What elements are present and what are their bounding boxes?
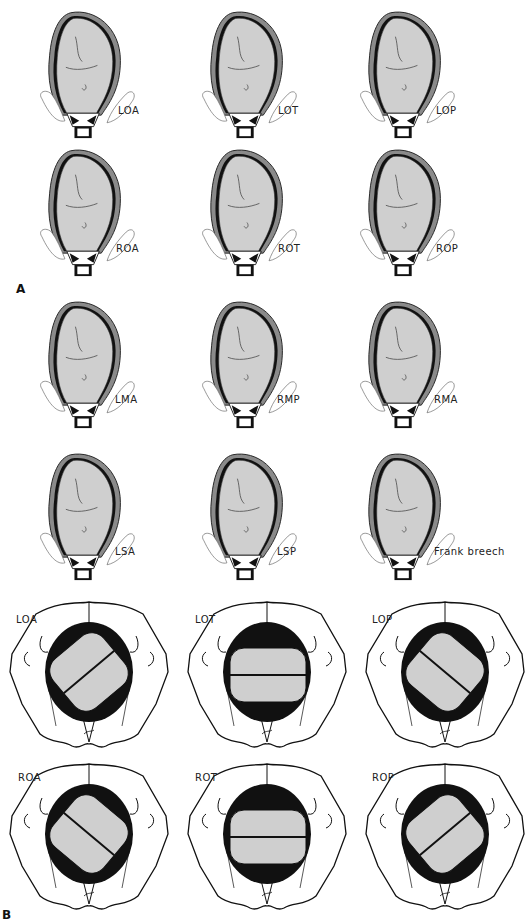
figure-label: LSA	[115, 546, 135, 557]
fetal-position-figure-lop	[350, 8, 460, 140]
figure-label: LOP	[372, 614, 393, 625]
panel-a-label: A	[16, 282, 25, 296]
figure-label: LOT	[278, 105, 299, 116]
figure-label: ROP	[372, 772, 394, 783]
figure-label: Frank breech	[434, 546, 505, 557]
figure-label: ROA	[116, 243, 139, 254]
figure-label: RMA	[434, 394, 458, 405]
figure-label: LOA	[118, 105, 139, 116]
fetal-position-figure-rmp	[192, 298, 302, 430]
figure-label: LSP	[277, 546, 296, 557]
figure-label: RMP	[277, 394, 300, 405]
fetal-position-figure-rot	[192, 146, 302, 278]
figure-label: LMA	[115, 394, 138, 405]
fetal-position-figure-roa	[30, 146, 140, 278]
fetal-position-figure-rma	[350, 298, 460, 430]
fetal-position-figure-lsp	[192, 450, 302, 582]
figure-label: ROT	[278, 243, 300, 254]
figure-label: ROP	[436, 243, 458, 254]
figure-label: LOP	[436, 105, 457, 116]
fetal-position-figure-rop	[350, 146, 460, 278]
figure-label: ROT	[195, 772, 217, 783]
panel-b-label: B	[2, 908, 11, 922]
fetal-position-figure-lsa	[30, 450, 140, 582]
fetal-position-figure-loa	[30, 8, 140, 140]
figure-label: LOT	[195, 614, 216, 625]
figure-label: LOA	[16, 614, 37, 625]
fetal-position-figure-lma	[30, 298, 140, 430]
figure-label: ROA	[18, 772, 41, 783]
fetal-position-figure-lot	[192, 8, 302, 140]
fetal-position-figure-frank-breech	[350, 450, 460, 582]
